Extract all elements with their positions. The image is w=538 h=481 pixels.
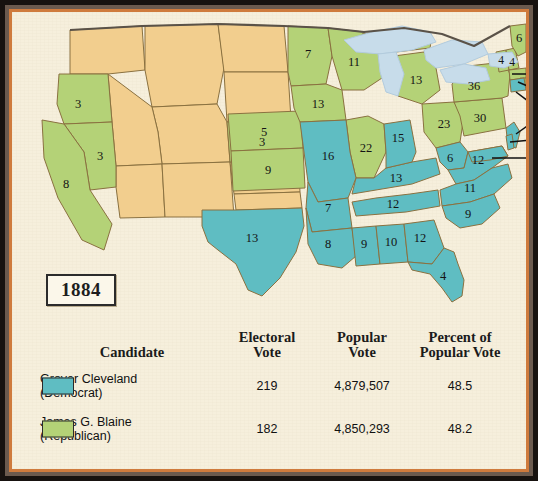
electoral-vote-blaine: 182 [224,408,310,451]
year-box: 1884 [46,274,116,306]
header-percent-line2: Popular Vote [414,345,506,360]
vote-label-TN: 12 [387,197,400,211]
election-map-figure: 3 3 8 3 5 9 7 13 11 13 22 23 30 4 4 6 15 [0,0,538,481]
vote-label-NH: 4 [509,56,515,68]
legend-swatch-democrat [42,378,74,395]
vote-label-OR: 3 [75,97,81,111]
vote-label-CA: 8 [63,177,69,191]
vote-label-NE: 5 [261,125,267,139]
vote-label-MN: 7 [305,47,311,61]
popular-vote-blaine: 4,850,293 [310,408,414,451]
vote-label-TX: 13 [246,231,259,245]
vote-label-IA: 13 [312,97,325,111]
results-legend: Candidate Electoral Vote Popular Vote Pe… [40,330,506,451]
vote-label-FL: 4 [440,269,447,283]
header-electoral-vote: Electoral Vote [224,330,310,365]
header-candidate: Candidate [40,330,224,365]
vote-label-IN: 15 [392,131,405,145]
percent-blaine: 48.2 [414,408,506,451]
figure-paper-background: 3 3 8 3 5 9 7 13 11 13 22 23 30 4 4 6 15 [12,12,526,469]
header-percent-popular-vote: Percent of Popular Vote [414,330,506,365]
header-percent-line1: Percent of [414,330,506,345]
legend-swatch-republican [42,421,74,438]
vote-label-WV: 6 [447,151,453,165]
year-label: 1884 [61,279,101,301]
table-header-row: Candidate Electoral Vote Popular Vote Pe… [40,330,506,365]
vote-label-KS: 9 [265,163,271,177]
vote-label-VT: 4 [498,54,504,66]
header-popular-line2: Vote [310,345,414,360]
vote-label-KY: 13 [390,171,403,185]
percent-cleveland: 48.5 [414,365,506,408]
vote-label-SC: 9 [465,207,471,221]
header-electoral-line1: Electoral [224,330,310,345]
candidate-cell-blaine: James G. Blaine (Republican) [40,408,224,451]
header-popular-line1: Popular [310,330,414,345]
vote-label-MI: 13 [410,73,423,87]
header-popular-vote: Popular Vote [310,330,414,365]
table-row: James G. Blaine (Republican) 182 4,850,2… [40,408,506,451]
popular-vote-cleveland: 4,879,507 [310,365,414,408]
vote-label-AR: 7 [325,201,331,215]
vote-label-MO: 16 [322,149,335,163]
vote-label-NC: 11 [464,181,476,195]
vote-label-AL: 10 [385,235,398,249]
vote-label-MS: 9 [361,237,367,251]
vote-label-WI: 11 [348,55,360,69]
vote-label-GA: 12 [414,231,427,245]
vote-label-NV: 3 [97,149,103,163]
vote-label-PA: 30 [474,111,487,125]
vote-label-VA: 12 [472,153,485,167]
vote-label-ME: 6 [516,31,522,45]
vote-label-IL: 22 [360,141,373,155]
header-electoral-line2: Vote [224,345,310,360]
electoral-vote-cleveland: 219 [224,365,310,408]
candidate-cell-cleveland: Grover Cleveland (Democrat) [40,365,224,408]
results-table: Candidate Electoral Vote Popular Vote Pe… [40,330,506,451]
vote-label-NY: 36 [468,79,481,93]
vote-label-OH: 23 [438,117,451,131]
table-row: Grover Cleveland (Democrat) 219 4,879,50… [40,365,506,408]
vote-label-LA: 8 [325,237,331,251]
